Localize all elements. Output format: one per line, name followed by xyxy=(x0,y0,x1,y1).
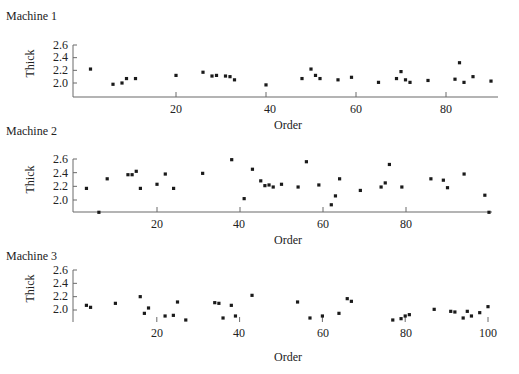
data-point xyxy=(267,183,270,186)
data-point xyxy=(126,173,129,176)
scatter-plots-canvas xyxy=(0,0,519,374)
data-point xyxy=(330,203,333,206)
data-point xyxy=(487,211,490,214)
data-point xyxy=(210,74,213,77)
data-point xyxy=(446,186,449,189)
data-point xyxy=(453,78,456,81)
data-point xyxy=(125,77,128,80)
data-point xyxy=(163,314,166,317)
data-point xyxy=(408,313,411,316)
data-point xyxy=(139,295,142,298)
data-point xyxy=(230,304,233,307)
data-point xyxy=(489,80,492,83)
data-point xyxy=(483,194,486,197)
data-point xyxy=(233,78,236,81)
data-point xyxy=(334,194,337,197)
data-point xyxy=(314,74,317,77)
data-point xyxy=(172,187,175,190)
data-point xyxy=(85,304,88,307)
data-point xyxy=(388,163,391,166)
data-point xyxy=(201,172,204,175)
data-point xyxy=(400,185,403,188)
data-point xyxy=(155,183,158,186)
data-point xyxy=(172,314,175,317)
data-point xyxy=(234,314,237,317)
data-point xyxy=(228,75,231,78)
data-point xyxy=(297,185,300,188)
data-point xyxy=(350,300,353,303)
data-point xyxy=(463,172,466,175)
data-point xyxy=(230,158,233,161)
data-point xyxy=(164,172,167,175)
data-point xyxy=(264,83,267,86)
data-point xyxy=(174,74,177,77)
data-point xyxy=(147,306,150,309)
data-point xyxy=(308,316,311,319)
data-point xyxy=(338,177,341,180)
data-point xyxy=(184,318,187,321)
data-point xyxy=(201,71,204,74)
data-point xyxy=(217,302,220,305)
data-point xyxy=(224,74,227,77)
data-point xyxy=(305,160,308,163)
data-point xyxy=(114,302,117,305)
data-point xyxy=(408,81,411,84)
data-point xyxy=(458,61,461,64)
data-point xyxy=(280,183,283,186)
data-point xyxy=(106,177,109,180)
data-point xyxy=(131,173,134,176)
data-point xyxy=(300,77,303,80)
data-point xyxy=(139,187,142,190)
data-point xyxy=(466,310,469,313)
data-point xyxy=(384,181,387,184)
data-point xyxy=(449,310,452,313)
data-point xyxy=(309,67,312,70)
data-point xyxy=(470,314,473,317)
data-point xyxy=(433,308,436,311)
data-point xyxy=(337,312,340,315)
data-point xyxy=(350,76,353,79)
data-point xyxy=(442,179,445,182)
data-point xyxy=(296,300,299,303)
data-point xyxy=(221,316,224,319)
data-point xyxy=(251,168,254,171)
data-point xyxy=(243,197,246,200)
data-point xyxy=(336,78,339,81)
data-point xyxy=(250,294,253,297)
data-point xyxy=(346,297,349,300)
data-point xyxy=(111,83,114,86)
data-point xyxy=(213,301,216,304)
data-point xyxy=(85,187,88,190)
data-point xyxy=(134,77,137,80)
data-point xyxy=(263,184,266,187)
data-point xyxy=(89,306,92,309)
data-point xyxy=(377,81,380,84)
data-point xyxy=(380,185,383,188)
data-point xyxy=(426,79,429,82)
data-point xyxy=(395,77,398,80)
data-point xyxy=(486,305,489,308)
data-point xyxy=(462,316,465,319)
data-point xyxy=(135,170,138,173)
data-point xyxy=(259,179,262,182)
data-point xyxy=(478,311,481,314)
data-point xyxy=(429,177,432,180)
data-point xyxy=(391,318,394,321)
data-point xyxy=(321,314,324,317)
data-point xyxy=(143,312,146,315)
data-point xyxy=(176,300,179,303)
data-point xyxy=(97,211,100,214)
data-point xyxy=(318,77,321,80)
data-point xyxy=(272,185,275,188)
data-point xyxy=(453,310,456,313)
data-point xyxy=(317,183,320,186)
data-point xyxy=(399,317,402,320)
data-point xyxy=(89,67,92,70)
data-point xyxy=(399,70,402,73)
data-point xyxy=(404,314,407,317)
data-point xyxy=(359,189,362,192)
data-point xyxy=(120,81,123,84)
data-point xyxy=(471,75,474,78)
data-point xyxy=(404,78,407,81)
data-point xyxy=(215,74,218,77)
